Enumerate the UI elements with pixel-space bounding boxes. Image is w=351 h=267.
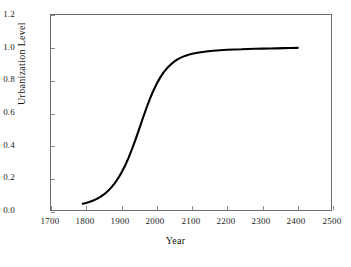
y-tick-label: 0.8 <box>0 75 15 84</box>
y-tick-mark <box>51 114 55 115</box>
x-axis-title: Year <box>0 235 351 246</box>
x-tick-label: 2300 <box>241 217 281 226</box>
y-tick-mark <box>51 81 55 82</box>
y-tick-label: 1.0 <box>0 43 15 52</box>
x-tick-label: 2200 <box>206 217 246 226</box>
x-tick-mark <box>86 206 87 210</box>
x-tick-label: 1900 <box>100 217 140 226</box>
x-tick-mark <box>298 206 299 210</box>
x-tick-mark <box>333 206 334 210</box>
x-tick-mark <box>51 206 52 210</box>
x-tick-mark <box>122 206 123 210</box>
y-tick-mark <box>51 15 55 16</box>
x-tick-label: 2500 <box>312 217 351 226</box>
x-tick-mark <box>227 206 228 210</box>
x-tick-label: 2100 <box>171 217 211 226</box>
x-tick-mark <box>263 206 264 210</box>
y-tick-mark <box>51 48 55 49</box>
chart-figure: Urbanization Level 1.2 1.0 0.8 0.6 0.4 0… <box>0 0 351 267</box>
y-tick-label: 0.6 <box>0 108 15 117</box>
y-tick-mark <box>51 179 55 180</box>
y-tick-mark <box>51 212 55 213</box>
y-tick-label: 0.4 <box>0 141 15 150</box>
y-tick-label: 1.2 <box>0 10 15 19</box>
figure-caption <box>0 259 351 267</box>
y-tick-label: 0.2 <box>0 173 15 182</box>
x-tick-label: 1800 <box>65 217 105 226</box>
x-tick-label: 2000 <box>135 217 175 226</box>
y-axis-title: Urbanization Level <box>16 0 27 129</box>
x-tick-mark <box>157 206 158 210</box>
y-tick-mark <box>51 146 55 147</box>
plot-area <box>50 14 332 211</box>
y-tick-label: 0.0 <box>0 206 15 215</box>
x-tick-mark <box>192 206 193 210</box>
x-tick-label: 1700 <box>30 217 70 226</box>
x-tick-label: 2400 <box>276 217 316 226</box>
line-series-urbanization <box>51 15 333 212</box>
